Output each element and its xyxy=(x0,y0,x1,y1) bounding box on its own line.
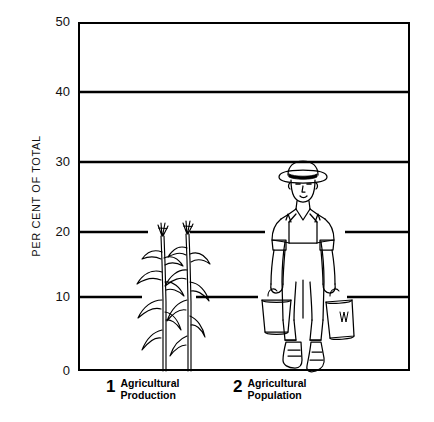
category-text-2-line2: Population xyxy=(247,389,301,401)
pictorial-bar-chart: PER CENT OF TOTAL 50 40 30 20 10 0 xyxy=(0,0,434,422)
chart-graphics-layer xyxy=(0,0,434,422)
category-axis-labels: 1 Agricultural Production 2 Agricultural… xyxy=(78,374,410,414)
category-text-2-line1: Agricultural xyxy=(247,377,306,389)
category-number-1: 1 xyxy=(106,379,115,394)
category-text-1-line2: Production xyxy=(120,389,175,401)
category-text-2: Agricultural Population xyxy=(247,378,306,401)
pictogram-farmer xyxy=(262,161,354,372)
category-number-2: 2 xyxy=(233,379,242,394)
category-label-2: 2 Agricultural Population xyxy=(233,378,306,401)
category-text-1: Agricultural Production xyxy=(120,378,179,401)
category-label-1: 1 Agricultural Production xyxy=(106,378,179,401)
category-text-1-line1: Agricultural xyxy=(120,377,179,389)
